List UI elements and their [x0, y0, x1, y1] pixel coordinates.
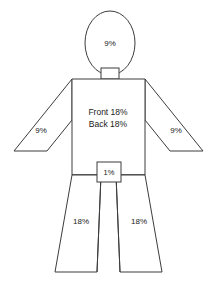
rule-of-nines-diagram: 9% 9% 9% Front 18% Back 18% 18% 18% 1%	[0, 0, 217, 287]
left-arm-region[interactable]	[14, 79, 72, 151]
right-leg-label: 18%	[131, 217, 147, 226]
left-arm-label: 9%	[35, 126, 47, 135]
neck-region[interactable]	[101, 68, 119, 79]
right-arm-region[interactable]	[145, 79, 203, 151]
right-arm-label: 9%	[170, 126, 182, 135]
head-label: 9%	[104, 39, 116, 48]
body-diagram-container: 9% 9% 9% Front 18% Back 18% 18% 18% 1%	[0, 0, 217, 287]
groin-label: 1%	[104, 168, 115, 177]
torso-back-label: Back 18%	[89, 119, 128, 129]
torso-front-label: Front 18%	[88, 107, 128, 117]
left-leg-label: 18%	[73, 217, 89, 226]
